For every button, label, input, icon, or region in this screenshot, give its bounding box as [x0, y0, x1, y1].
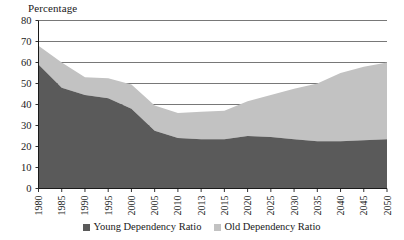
x-tick-label: 2025 [265, 196, 276, 216]
x-tick-label: 1995 [103, 196, 114, 216]
dependency-ratio-chart: Percentage 01020304050607080 19801985199… [0, 0, 404, 240]
legend-swatch-young [83, 224, 90, 231]
x-tick-label: 2040 [335, 196, 346, 216]
x-tick-label: 2035 [312, 196, 323, 216]
x-tick-label: 2020 [242, 196, 253, 216]
y-tick-label: 70 [21, 36, 32, 47]
x-tick-label: 2005 [149, 196, 160, 216]
x-tick-label: 2030 [289, 196, 300, 216]
stacked-area-series [39, 46, 388, 189]
chart-legend: Young Dependency Ratio Old Dependency Ra… [0, 221, 404, 233]
x-tick-labels: 1980198519901995200020052010201320152020… [33, 196, 393, 216]
x-tick-label: 2050 [382, 196, 393, 216]
y-tick-label: 80 [21, 15, 32, 26]
legend-item-young: Young Dependency Ratio [83, 221, 201, 233]
x-tick-label: 1980 [33, 196, 44, 216]
x-tick-label: 2015 [219, 196, 230, 216]
x-tick-label: 1990 [79, 196, 90, 216]
y-tick-label: 20 [21, 141, 32, 152]
legend-item-old: Old Dependency Ratio [214, 221, 320, 233]
y-tick-label: 60 [21, 57, 32, 68]
x-tick-label: 2010 [172, 196, 183, 216]
legend-label-old: Old Dependency Ratio [224, 221, 320, 233]
x-tick-marks [39, 189, 388, 193]
y-tick-label: 50 [21, 78, 32, 89]
y-tick-label: 40 [21, 99, 32, 110]
y-tick-label: 0 [26, 183, 31, 194]
chart-plot-area: 01020304050607080 1980198519901995200020… [0, 0, 404, 240]
y-tick-label: 10 [21, 162, 32, 173]
x-tick-label: 1985 [56, 196, 67, 216]
x-tick-label: 2045 [358, 196, 369, 216]
legend-swatch-old [214, 224, 221, 231]
y-tick-labels: 01020304050607080 [21, 15, 39, 194]
x-tick-label: 2000 [126, 196, 137, 216]
x-tick-label: 2013 [196, 196, 207, 216]
y-tick-label: 30 [21, 120, 32, 131]
legend-label-young: Young Dependency Ratio [93, 221, 201, 233]
